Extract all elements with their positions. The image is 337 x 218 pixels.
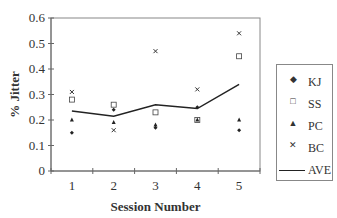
square-marker-icon: □ xyxy=(281,96,305,106)
y-tick-label: 0.3 xyxy=(29,87,45,102)
x-tick-label: 5 xyxy=(236,178,243,193)
pc-data-point xyxy=(112,120,116,124)
kj-data-point xyxy=(237,128,241,132)
x-marker-icon: ✕ xyxy=(281,140,305,150)
legend-item-kj: ◆ KJ xyxy=(277,73,332,91)
bc-data-point xyxy=(70,90,74,94)
ss-data-point xyxy=(69,97,74,102)
x-axis-title: Session Number xyxy=(111,199,201,214)
y-axis-title: % Jitter xyxy=(7,71,22,118)
pc-data-point xyxy=(154,123,158,127)
bc-data-point xyxy=(112,128,116,132)
x-tick-label: 3 xyxy=(152,178,159,193)
plot-frame xyxy=(51,18,260,171)
x-tick-label: 1 xyxy=(69,178,76,193)
y-tick-label: 0.5 xyxy=(29,36,45,51)
x-tick-label: 4 xyxy=(194,178,201,193)
kj-data-point xyxy=(70,131,74,135)
diamond-marker-icon: ◆ xyxy=(281,74,305,84)
line-marker-icon xyxy=(279,170,305,171)
bc-data-point xyxy=(154,49,158,53)
kj-data-point xyxy=(112,108,116,112)
plot-area: 00.10.20.30.40.50.612345Session Number% … xyxy=(7,10,260,214)
legend-label: KJ xyxy=(308,75,321,90)
legend: ◆ KJ □ SS ▲ PC ✕ BC AVE xyxy=(276,64,333,181)
legend-item-pc: ▲ PC xyxy=(277,117,332,135)
y-tick-label: 0 xyxy=(39,163,46,178)
ss-data-point xyxy=(237,54,242,59)
x-tick-label: 2 xyxy=(110,178,117,193)
y-tick-label: 0.4 xyxy=(29,61,46,76)
y-tick-label: 0.2 xyxy=(29,112,45,127)
pc-data-point xyxy=(70,118,74,122)
legend-label: PC xyxy=(308,119,323,134)
ss-data-point xyxy=(153,110,158,115)
ss-data-point xyxy=(111,102,116,107)
triangle-marker-icon: ▲ xyxy=(281,118,305,128)
legend-label: BC xyxy=(308,141,324,156)
pc-data-point xyxy=(237,118,241,122)
legend-label: SS xyxy=(308,97,321,112)
bc-data-point xyxy=(237,31,241,35)
y-tick-label: 0.1 xyxy=(29,138,45,153)
legend-item-ss: □ SS xyxy=(277,95,332,113)
bc-data-point xyxy=(195,87,199,91)
legend-item-bc: ✕ BC xyxy=(277,139,332,157)
y-tick-label: 0.6 xyxy=(29,10,46,25)
legend-item-ave: AVE xyxy=(277,161,332,179)
legend-label: AVE xyxy=(308,163,331,178)
